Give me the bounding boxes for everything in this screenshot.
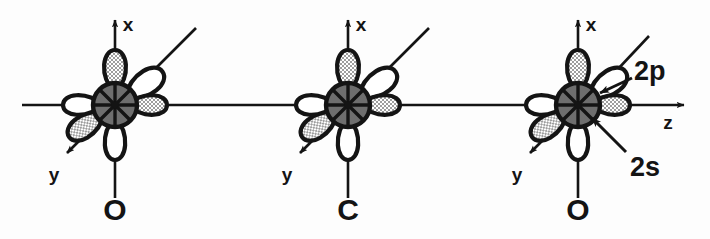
right-oxygen-element-label: O bbox=[566, 193, 589, 226]
right-oxygen-x-axis-label: x bbox=[586, 14, 597, 35]
callout-2s-arrow bbox=[592, 118, 626, 152]
center-carbon-leader-line bbox=[388, 28, 429, 69]
left-oxygen-element-label: O bbox=[103, 193, 126, 226]
atom-left-oxygen: x y O bbox=[49, 14, 196, 226]
orbital-diagram-canvas: z x y O x bbox=[0, 0, 710, 239]
center-carbon-y-axis-label: y bbox=[282, 164, 293, 185]
callout-2p-label: 2p bbox=[634, 56, 666, 86]
right-oxygen-y-axis-label: y bbox=[512, 164, 523, 185]
atom-right-oxygen: x y O 2p 2s bbox=[512, 14, 666, 226]
left-oxygen-orbital-cluster bbox=[63, 50, 169, 160]
left-oxygen-leader-line bbox=[155, 28, 196, 69]
z-axis-label: z bbox=[663, 112, 673, 133]
callout-2s-label: 2s bbox=[630, 152, 660, 182]
atom-center-carbon: x y C bbox=[282, 14, 429, 226]
center-carbon-x-axis-label: x bbox=[356, 14, 367, 35]
left-oxygen-x-axis-label: x bbox=[123, 14, 134, 35]
center-carbon-element-label: C bbox=[337, 193, 359, 226]
callout-2s: 2s bbox=[592, 118, 660, 182]
left-oxygen-y-axis-label: y bbox=[49, 164, 60, 185]
orbital-diagram-figure: z x y O x bbox=[0, 0, 710, 239]
center-carbon-orbital-cluster bbox=[296, 50, 402, 160]
